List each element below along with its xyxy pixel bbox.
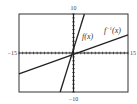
x-max-label: 15: [130, 50, 136, 56]
x-min-label: −15: [8, 50, 17, 56]
y-min-label: −10: [69, 96, 78, 102]
f-label: f(x): [82, 32, 93, 41]
y-max-label: 10: [71, 5, 77, 11]
function-inverse-plot: 10 −10 −15 15 f(x) f−1(x): [0, 0, 137, 104]
